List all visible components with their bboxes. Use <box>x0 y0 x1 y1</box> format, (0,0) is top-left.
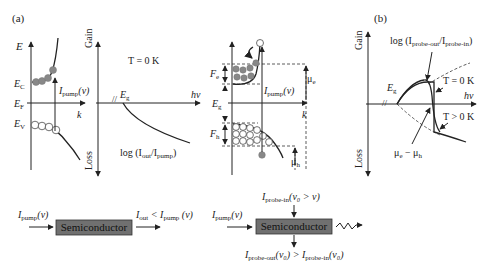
temperature-label: T = 0 K <box>128 55 160 66</box>
axis-break-icon: // <box>382 98 388 108</box>
hole-icon <box>38 122 46 130</box>
gain-label: Gain <box>83 29 94 48</box>
conduction-band-curve <box>32 38 58 82</box>
hv-label: hν <box>191 89 201 100</box>
gain-plot-b: (b) Gain Loss hν // Eg log (Iprobe-out/I… <box>353 12 476 176</box>
hv-label: hν <box>464 90 474 101</box>
loss-label: Loss <box>353 149 364 168</box>
band-diagram-equilibrium: E k EC EF EV Ipump(ν) <box>13 38 90 170</box>
tpos-label: T > 0 K <box>443 111 475 122</box>
hole-cluster <box>233 124 273 146</box>
hole-icon <box>45 123 53 131</box>
mu-label: μe − μh <box>394 147 423 160</box>
block-diagram-gain: Ipump(ν) Iprobe-in(ν₀ > ν) Semiconductor… <box>211 191 362 262</box>
electron-icon <box>247 65 253 71</box>
relaxation-arrow <box>249 47 253 58</box>
ev-label: EV <box>13 118 25 131</box>
electron-icon <box>233 66 239 72</box>
fh-label: Fh <box>209 128 220 141</box>
pump-label: Ipump(ν) <box>263 85 295 98</box>
mu-h-label: μh <box>291 156 300 169</box>
electron-icon <box>241 75 247 81</box>
probe-out-label: Iprobe-out(ν₀) > Iprobe-in(ν₀) <box>244 249 344 262</box>
k-axis-label: k <box>77 109 82 120</box>
pump-label: Ipump(ν) <box>58 85 90 98</box>
mu-e-label: μe <box>307 73 315 86</box>
electron-icon <box>240 67 246 73</box>
eg-label: Eg <box>386 82 397 95</box>
semiconductor-label: Semiconductor <box>261 220 328 232</box>
energy-axis-label: E <box>15 40 23 52</box>
panel-a-label: (a) <box>12 12 25 25</box>
electron-icon <box>234 74 240 80</box>
electron-icon <box>45 75 52 82</box>
t0-label: T = 0 K <box>443 75 475 86</box>
panel-b-label: (b) <box>374 12 387 25</box>
gain-plot-a: Gain Loss T = 0 K // Eg hν log (Iout/Ipu… <box>83 29 201 176</box>
curve-label: log (Iout/Ipump) <box>120 147 176 160</box>
band-diagram-inverted: k Fe Eg <box>209 40 315 176</box>
semiconductor-label: Semiconductor <box>61 221 128 233</box>
probe-in-label: Iprobe-in(ν₀ > ν) <box>261 191 320 204</box>
hole-icon <box>31 121 39 129</box>
ef-label: EF <box>13 98 24 111</box>
electron-icon <box>253 60 259 66</box>
block2-input-label: Ipump(ν) <box>211 209 243 222</box>
axis-break-icon: // <box>112 94 118 104</box>
block-diagram-absorption: Ipump(ν) Semiconductor Iout < Ipump (ν) <box>17 209 194 235</box>
ec-label: EC <box>13 78 25 91</box>
eg-label: Eg <box>119 89 130 102</box>
emission-wave-icon <box>336 223 362 229</box>
hole-icon <box>52 126 60 134</box>
block1-output-label: Iout < Ipump (ν) <box>135 209 194 222</box>
electron-icon <box>248 73 254 79</box>
electron-icon <box>50 67 57 74</box>
electron-icon <box>259 152 266 159</box>
absorption-curve <box>123 103 190 143</box>
loss-label: Loss <box>83 151 94 170</box>
diagram-canvas: (a) E k EC EF EV Ipump(ν) Gain Loss T = … <box>0 0 500 278</box>
hole-icon <box>257 40 264 47</box>
block1-input-label: Ipump(ν) <box>17 209 49 222</box>
gain-label: Gain <box>353 31 364 50</box>
eg-label: Eg <box>211 98 222 111</box>
fe-label: Fe <box>209 68 219 81</box>
curve-label: log (Iprobe-out/Iprobe-in) <box>390 35 472 48</box>
